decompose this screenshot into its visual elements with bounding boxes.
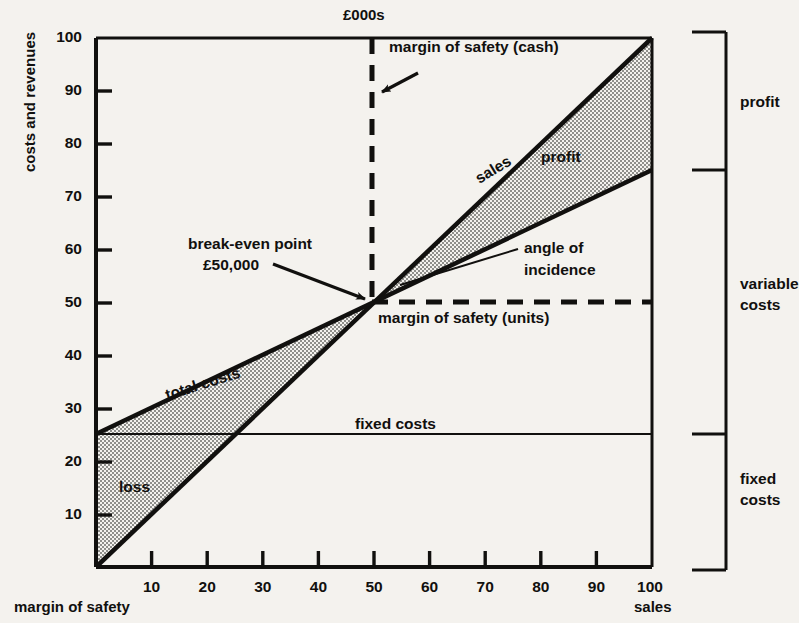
angle-of-incidence-label-line1: angle of bbox=[524, 239, 583, 256]
x-tick-100: 100 bbox=[630, 578, 670, 595]
y-tick-70: 70 bbox=[40, 187, 82, 204]
right-brackets bbox=[692, 32, 726, 570]
y-tick-50: 50 bbox=[40, 293, 82, 310]
x-tick-30: 30 bbox=[243, 578, 283, 595]
x-tick-90: 90 bbox=[576, 578, 616, 595]
y-tick-20: 20 bbox=[40, 452, 82, 469]
loss-area-label: loss bbox=[119, 478, 150, 495]
break-even-value-label: £50,000 bbox=[203, 256, 259, 273]
profit-area-label: profit bbox=[541, 148, 581, 165]
bracket-label-fixed-costs-line1: fixed bbox=[740, 470, 776, 487]
y-tick-30: 30 bbox=[40, 399, 82, 416]
margin-of-safety-units-label: margin of safety (units) bbox=[378, 309, 549, 326]
margin-of-safety-cash-arrow bbox=[382, 73, 418, 92]
x-axis-title: sales bbox=[634, 599, 672, 616]
bracket-label-variable-costs-line1: variable bbox=[740, 275, 799, 292]
break-even-arrow bbox=[273, 264, 365, 299]
y-tick-60: 60 bbox=[40, 240, 82, 257]
margin-of-safety-cash-label: margin of safety (cash) bbox=[389, 38, 559, 55]
x-tick-80: 80 bbox=[521, 578, 561, 595]
margin-of-safety-axis-title: margin of safety bbox=[14, 599, 130, 616]
y-tick-80: 80 bbox=[40, 134, 82, 151]
break-even-point-label: break-even point bbox=[188, 235, 312, 252]
y-tick-90: 90 bbox=[40, 81, 82, 98]
y-axis-title: costs and revenues bbox=[22, 32, 39, 172]
x-tick-10: 10 bbox=[132, 578, 172, 595]
x-axis-ticks bbox=[152, 551, 597, 567]
bracket-label-profit: profit bbox=[740, 93, 780, 110]
y-tick-40: 40 bbox=[40, 346, 82, 363]
x-tick-40: 40 bbox=[298, 578, 338, 595]
fixed-costs-line-label: fixed costs bbox=[355, 415, 436, 432]
bracket-label-variable-costs-line2: costs bbox=[740, 296, 781, 313]
y-tick-100: 100 bbox=[40, 28, 82, 45]
angle-of-incidence-label-line2: incidence bbox=[524, 261, 596, 278]
x-tick-70: 70 bbox=[465, 578, 505, 595]
x-tick-20: 20 bbox=[187, 578, 227, 595]
x-tick-50: 50 bbox=[354, 578, 394, 595]
x-tick-60: 60 bbox=[410, 578, 450, 595]
y-tick-10: 10 bbox=[40, 505, 82, 522]
unit-caption: £000s bbox=[343, 7, 385, 24]
bracket-label-fixed-costs-line2: costs bbox=[740, 491, 781, 508]
